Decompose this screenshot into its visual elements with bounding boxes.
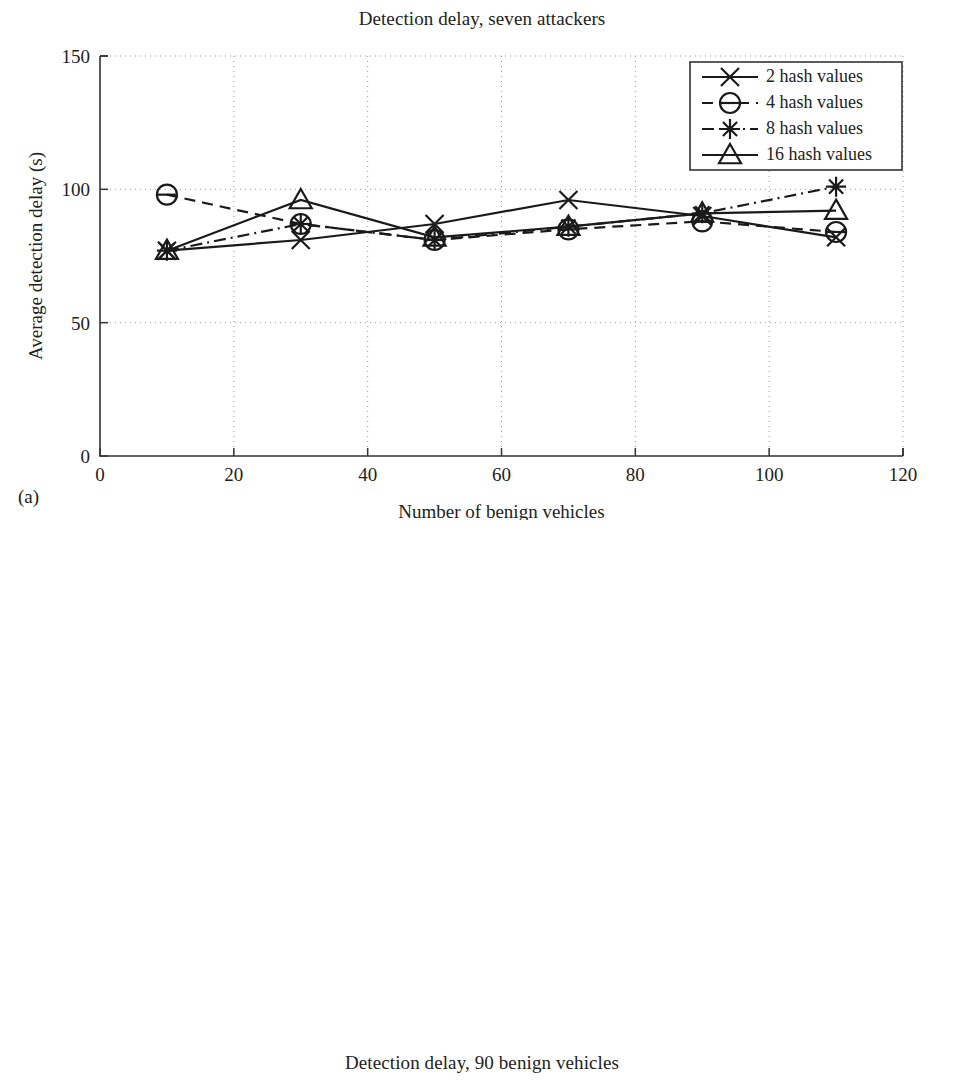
x-tick-label: 80 xyxy=(626,464,645,485)
panel-b-plot: 012345678910050100150Number of attackers… xyxy=(0,1040,964,1081)
y-tick-label: 100 xyxy=(62,179,91,200)
x-tick-label: 100 xyxy=(755,464,784,485)
y-tick-label: 150 xyxy=(62,46,91,67)
triangle-marker xyxy=(290,189,312,208)
x-tick-label: 20 xyxy=(224,464,243,485)
panel-b: Detection delay, 90 benign vehicles 0123… xyxy=(0,1040,964,1081)
panel-a-plot: 020406080100120050100150Number of benign… xyxy=(0,0,964,520)
legend-label: 8 hash values xyxy=(766,118,863,138)
series-group xyxy=(156,177,847,261)
x-tick-label: 0 xyxy=(95,464,105,485)
y-tick-label: 0 xyxy=(81,446,91,467)
asterisk-marker xyxy=(826,177,846,197)
panel-a: Detection delay, seven attackers 0204060… xyxy=(0,0,964,520)
panel-a-subfigure-label: (a) xyxy=(18,486,39,508)
x-tick-label: 40 xyxy=(358,464,377,485)
asterisk-marker xyxy=(720,119,740,139)
series-line xyxy=(167,200,836,251)
legend: 2 hash values4 hash values8 hash values1… xyxy=(690,62,902,170)
figure-container: Detection delay, seven attackers 0204060… xyxy=(0,0,964,1081)
series-2 xyxy=(157,185,846,250)
y-tick-label: 50 xyxy=(71,313,90,334)
x-tick-label: 60 xyxy=(492,464,511,485)
y-axis-label: Average detection delay (s) xyxy=(25,152,47,360)
asterisk-marker xyxy=(291,214,311,234)
x-axis-label: Number of benign vehicles xyxy=(398,501,604,520)
legend-label: 2 hash values xyxy=(766,66,863,86)
legend-label: 16 hash values xyxy=(766,144,872,164)
circle-dash-marker xyxy=(157,185,177,205)
triangle-marker xyxy=(825,200,847,219)
x-tick-label: 120 xyxy=(889,464,918,485)
legend-label: 4 hash values xyxy=(766,92,863,112)
circle-dash-marker xyxy=(826,222,846,242)
